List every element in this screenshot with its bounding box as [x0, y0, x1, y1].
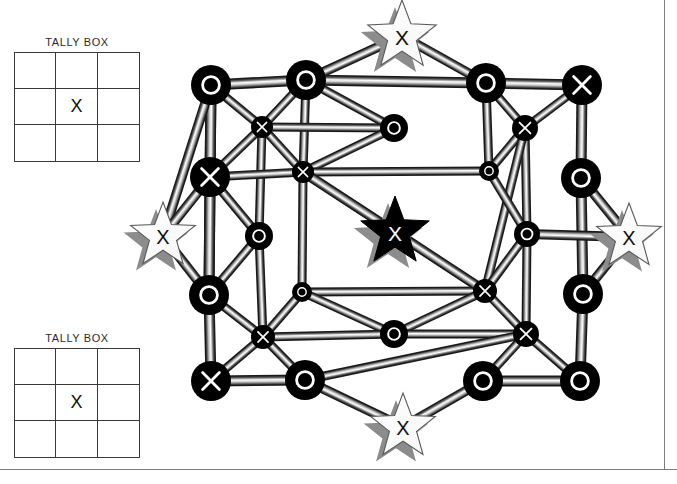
graph-node[interactable] [479, 161, 499, 181]
graph-node[interactable] [190, 157, 230, 197]
graph-node[interactable] [512, 115, 538, 141]
graph-node[interactable] [286, 60, 326, 100]
graph-edge [263, 330, 394, 342]
graph-node[interactable] [292, 161, 314, 183]
graph-node[interactable] [514, 221, 540, 247]
graph-edge [255, 127, 267, 236]
canvas: TALLY BOX X TALLY BOX X [0, 0, 677, 484]
graph-edge [262, 123, 394, 133]
graph-node[interactable] [251, 116, 273, 138]
graph-node[interactable] [245, 222, 273, 250]
graph-node[interactable] [292, 282, 312, 302]
graph-node[interactable] [513, 321, 539, 347]
star-node[interactable]: X [361, 0, 436, 72]
graph-node[interactable] [463, 361, 503, 401]
graph-node[interactable] [191, 65, 231, 105]
graph-node[interactable] [473, 279, 497, 303]
right-divider [664, 0, 665, 470]
graph-node[interactable] [561, 158, 601, 198]
graph-edge [255, 236, 268, 337]
graph-node[interactable] [380, 114, 408, 142]
star-node[interactable]: X [364, 393, 436, 462]
star-node[interactable]: X [590, 203, 662, 272]
graph-node[interactable] [251, 325, 275, 349]
graph-edge [306, 75, 486, 89]
graph-edge [303, 167, 489, 177]
graph-node[interactable] [466, 63, 506, 103]
bottom-divider [0, 469, 677, 470]
graph-edge [302, 287, 485, 297]
network-diagram: XXXXX [0, 0, 677, 484]
graph-edge [522, 234, 532, 334]
graph-node[interactable] [562, 65, 602, 105]
graph-edge [298, 172, 308, 292]
graph-node[interactable] [189, 275, 229, 315]
graph-node[interactable] [285, 360, 325, 400]
graph-node[interactable] [560, 361, 600, 401]
graph-node[interactable] [191, 361, 231, 401]
graph-node[interactable] [380, 320, 408, 348]
graph-node[interactable] [563, 274, 603, 314]
